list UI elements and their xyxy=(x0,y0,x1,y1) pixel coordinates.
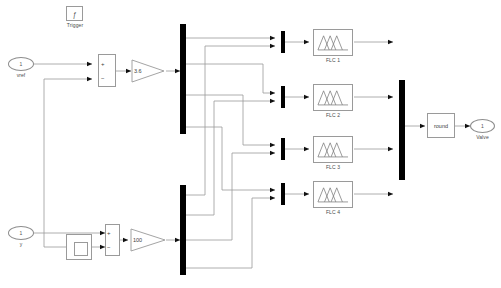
outport-valve-number: 1 xyxy=(471,123,494,129)
mux-output[interactable] xyxy=(399,80,405,180)
trigger-label: Trigger xyxy=(54,22,96,28)
gain-delta-error-value: 100 xyxy=(133,237,142,243)
inport-vref[interactable]: 1 xyxy=(8,57,34,71)
inport-y-number: 1 xyxy=(9,230,33,236)
demux-error[interactable] xyxy=(180,24,186,134)
inport-y-label: y xyxy=(4,241,38,247)
fuzzy-membership-icon xyxy=(317,185,349,204)
flc-block-2-label: FLC 2 xyxy=(313,112,353,118)
round-block-label: round xyxy=(428,123,454,129)
flc-block-2[interactable] xyxy=(313,84,353,111)
flc-block-4-label: FLC 4 xyxy=(313,209,353,215)
flc-block-1-label: FLC 1 xyxy=(313,57,353,63)
sum-top-plus: + xyxy=(101,61,105,67)
gain-error[interactable]: 3.6 xyxy=(131,59,165,83)
inport-y[interactable]: 1 xyxy=(8,226,34,240)
mux-flc-2[interactable] xyxy=(281,86,285,108)
demux-delta-error[interactable] xyxy=(180,185,186,275)
flc-block-3[interactable] xyxy=(313,136,353,163)
unit-delay-icon xyxy=(74,242,88,256)
flc-block-1[interactable] xyxy=(313,29,353,56)
fuzzy-membership-icon xyxy=(317,33,349,52)
fuzzy-membership-icon xyxy=(317,88,349,107)
inport-vref-label: vref xyxy=(2,72,40,78)
flc-block-3-label: FLC 3 xyxy=(313,164,353,170)
sum-block-top[interactable]: + − xyxy=(98,54,116,87)
inport-vref-number: 1 xyxy=(9,61,33,67)
unit-delay-block[interactable] xyxy=(66,234,92,260)
flc-block-4[interactable] xyxy=(313,181,353,208)
outport-valve-label: Valve xyxy=(464,134,501,140)
sum-bottom-minus: − xyxy=(107,244,111,250)
mux-flc-3[interactable] xyxy=(281,138,285,160)
sum-top-minus: − xyxy=(101,75,105,81)
trigger-block[interactable]: ƒ xyxy=(66,6,83,21)
sum-bottom-plus: + xyxy=(107,230,111,236)
sum-block-bottom[interactable]: + − xyxy=(105,224,120,256)
gain-delta-error[interactable]: 100 xyxy=(130,228,166,252)
trigger-icon: ƒ xyxy=(67,10,82,17)
gain-error-value: 3.6 xyxy=(134,68,142,74)
round-block[interactable]: round xyxy=(427,113,455,138)
mux-flc-4[interactable] xyxy=(281,183,285,205)
fuzzy-membership-icon xyxy=(317,140,349,159)
outport-valve[interactable]: 1 xyxy=(470,119,495,133)
simulink-diagram-canvas: ƒ Trigger 1 vref + − 3.6 1 y + − 100 xyxy=(0,0,501,288)
mux-flc-1[interactable] xyxy=(281,31,285,53)
